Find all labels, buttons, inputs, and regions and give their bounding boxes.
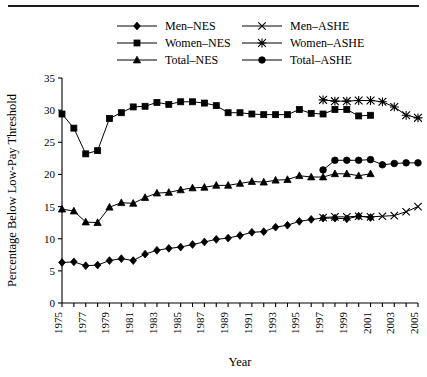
data-point-women-nes: [273, 112, 279, 118]
legend-marker-diamond-icon: [134, 22, 141, 30]
series-line-women-nes: [62, 102, 371, 154]
data-point-women-nes: [249, 111, 255, 117]
data-point-women-nes: [142, 103, 148, 109]
data-point-women-nes: [344, 107, 350, 113]
data-point-women-nes: [130, 104, 136, 110]
data-point-men-nes: [177, 243, 184, 251]
data-point-women-nes: [320, 111, 326, 117]
data-point-total-ashe: [355, 157, 362, 164]
data-point-men-ashe: [402, 208, 409, 215]
data-point-women-nes: [154, 99, 160, 105]
data-point-men-nes: [94, 261, 101, 269]
data-point-total-ashe: [367, 156, 374, 163]
x-tick-label: 1979: [99, 312, 111, 335]
x-tick-label: 1993: [266, 312, 278, 335]
x-tick-label: 1981: [123, 312, 135, 334]
y-tick-label: 25: [44, 136, 56, 148]
data-point-total-ashe: [344, 157, 351, 164]
data-point-men-nes: [284, 221, 291, 229]
data-point-total-ashe: [320, 167, 327, 174]
data-point-total-ashe: [332, 157, 339, 164]
data-point-men-nes: [249, 228, 256, 236]
data-point-women-ashe: [366, 96, 375, 105]
data-point-women-nes: [166, 101, 172, 107]
data-point-women-nes: [178, 99, 184, 105]
data-point-women-ashe: [342, 97, 351, 106]
data-point-men-nes: [332, 214, 339, 222]
y-tick-label: 15: [44, 201, 56, 213]
data-point-men-nes: [59, 259, 66, 267]
data-point-women-nes: [106, 116, 112, 122]
data-point-total-ashe: [391, 160, 398, 167]
data-point-men-nes: [213, 235, 220, 243]
data-point-total-nes: [118, 199, 125, 206]
legend-marker-square-icon: [134, 40, 140, 46]
data-point-women-ashe: [331, 97, 340, 106]
x-tick-label: 1975: [52, 312, 64, 335]
data-point-men-nes: [260, 228, 267, 236]
data-point-men-nes: [308, 216, 315, 224]
data-point-total-ashe: [403, 160, 410, 167]
data-point-men-ashe: [414, 203, 421, 210]
x-tick-label: 1997: [313, 312, 325, 335]
y-tick-label: 10: [44, 233, 56, 245]
y-tick-label: 20: [44, 168, 56, 180]
y-axis-title: Percentage Below Low-Pay Threshold: [5, 93, 19, 287]
x-tick-label: 2005: [408, 312, 420, 335]
data-point-men-nes: [71, 258, 78, 266]
data-point-women-nes: [368, 112, 374, 118]
data-point-men-nes: [142, 250, 149, 258]
data-point-men-nes: [118, 255, 125, 263]
data-point-women-nes: [332, 107, 338, 113]
data-point-women-nes: [284, 112, 290, 118]
data-point-total-nes: [367, 170, 374, 177]
x-tick-label: 1991: [242, 312, 254, 334]
data-point-women-ashe: [354, 96, 363, 105]
x-tick-label: 1995: [289, 312, 301, 335]
data-point-total-nes: [248, 178, 255, 185]
x-tick-label: 1989: [218, 312, 230, 335]
x-tick-label: 2003: [384, 312, 396, 335]
data-point-men-nes: [154, 246, 161, 254]
data-point-women-nes: [95, 148, 101, 154]
data-point-men-nes: [225, 234, 232, 242]
x-axis-title: Year: [228, 355, 252, 369]
x-tick-label: 1999: [337, 312, 349, 335]
y-tick-label: 5: [50, 265, 56, 277]
data-point-men-nes: [201, 238, 208, 246]
data-point-women-nes: [71, 125, 77, 131]
data-point-women-nes: [59, 111, 65, 117]
data-point-men-nes: [82, 262, 89, 270]
data-point-women-nes: [308, 110, 314, 116]
data-point-women-nes: [201, 100, 207, 106]
legend-label: Women–ASHE: [290, 36, 364, 50]
y-tick-label: 0: [50, 297, 56, 309]
legend-marker-circle-icon: [259, 57, 266, 64]
y-tick-label: 30: [44, 104, 56, 116]
data-point-women-nes: [83, 151, 89, 157]
data-point-women-ashe: [378, 97, 387, 106]
x-tick-label: 1977: [76, 312, 88, 335]
y-tick-label: 35: [44, 72, 56, 84]
data-point-men-nes: [272, 223, 279, 231]
legend-label: Men–ASHE: [290, 19, 349, 33]
data-point-men-nes: [166, 244, 173, 252]
legend-label: Women–NES: [165, 36, 231, 50]
data-point-women-ashe: [319, 95, 328, 104]
data-point-women-nes: [356, 113, 362, 119]
data-point-women-ashe: [402, 111, 411, 120]
data-point-men-nes: [106, 257, 113, 265]
x-tick-label: 1987: [194, 312, 206, 335]
data-point-women-nes: [213, 103, 219, 109]
legend-marker-asterisk-icon: [258, 39, 267, 48]
data-point-men-nes: [296, 217, 303, 225]
data-point-women-nes: [118, 110, 124, 116]
legend-label: Total–ASHE: [290, 53, 352, 67]
data-point-women-nes: [225, 110, 231, 116]
x-tick-label: 1983: [147, 312, 159, 335]
data-point-total-ashe: [415, 160, 422, 167]
x-tick-label: 1985: [171, 312, 183, 335]
data-point-women-ashe: [414, 113, 423, 122]
data-point-women-nes: [296, 107, 302, 113]
data-point-men-nes: [237, 232, 244, 240]
